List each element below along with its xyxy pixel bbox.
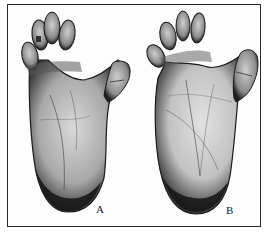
panel-label-a: A: [96, 204, 104, 215]
panel-label-b: B: [226, 205, 233, 216]
figure-plate: [0, 0, 266, 235]
foot-b: [143, 11, 258, 214]
foot-a: [19, 12, 130, 212]
